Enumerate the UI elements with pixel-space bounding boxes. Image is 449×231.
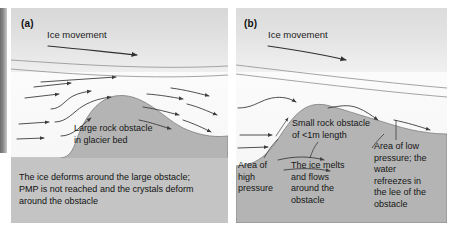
panel-b: (b) Ice movement Small rock obstacle of … — [236, 8, 447, 223]
panel-b-obstacle-label-line1: Small rock obstacle — [292, 118, 392, 130]
panel-b-low-pressure-line1: Area of low — [374, 141, 444, 153]
panel-a-caption-line2: PMP is not reached and the crystals defo… — [19, 183, 224, 195]
panel-b-melt-line1: The ice melts — [291, 160, 367, 172]
panel-b-high-pressure-line1: Area of — [238, 160, 286, 172]
figure-root: (a) Ice movement Large rock obstacle in … — [0, 0, 449, 231]
panel-b-high-pressure-line3: pressure — [238, 183, 286, 195]
panel-b-low-pressure-line4: refreezes in — [374, 176, 444, 188]
panel-b-high-pressure-label: Area of high pressure — [238, 160, 286, 195]
panel-b-ice-movement-label: Ice movement — [268, 29, 328, 40]
panel-a-caption: The ice deforms around the large obstacl… — [19, 171, 224, 207]
panel-b-melt-line4: obstacle — [291, 195, 367, 207]
panel-b-obstacle-label-line2: of <1m length — [292, 130, 392, 142]
panel-a-caption-line3: around the obstacle — [19, 195, 224, 207]
panel-b-high-pressure-line2: high — [238, 172, 286, 184]
panel-a-caption-band: The ice deforms around the large obstacl… — [11, 158, 228, 223]
panel-a-label: (a) — [21, 18, 34, 29]
panel-a-obstacle-label-line1: Large rock obstacle — [74, 123, 194, 135]
panel-b-low-pressure-label: Area of low pressure; the water refreeze… — [374, 141, 444, 210]
panel-b-low-pressure-line6: obstacle — [374, 199, 444, 211]
panel-b-melt-line2: and flows — [291, 172, 367, 184]
panel-a-ice-movement-label: Ice movement — [47, 29, 107, 40]
panel-a-obstacle-label: Large rock obstacle in glacier bed — [74, 123, 194, 146]
panel-b-label: (b) — [244, 18, 257, 29]
panel-b-melt-line3: around the — [291, 183, 367, 195]
panel-b-low-pressure-line5: the lee of the — [374, 187, 444, 199]
panel-a-caption-line1: The ice deforms around the large obstacl… — [19, 171, 224, 183]
panel-a-obstacle-label-line2: in glacier bed — [74, 135, 194, 147]
panel-b-low-pressure-line2: pressure; the — [374, 153, 444, 165]
panel-b-melt-label: The ice melts and flows around the obsta… — [291, 160, 367, 206]
page-spine-shadow — [0, 8, 7, 153]
panel-b-low-pressure-line3: water — [374, 164, 444, 176]
panel-a: (a) Ice movement Large rock obstacle in … — [11, 8, 228, 223]
panel-b-obstacle-label: Small rock obstacle of <1m length — [292, 118, 392, 141]
